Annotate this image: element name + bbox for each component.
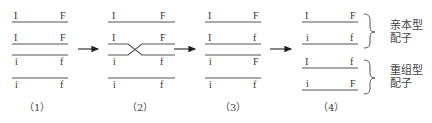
allele-label: f [253, 32, 257, 43]
allele-label: i [15, 56, 18, 67]
allele-label: F [350, 10, 356, 21]
allele-label: f [160, 56, 164, 67]
crossover-strand [108, 44, 175, 55]
recombinant-gamete-label: 重组型 [390, 63, 423, 77]
brace-icon [364, 60, 375, 94]
parental-gamete-label: 亲本型 [390, 18, 423, 32]
allele-label: I [112, 32, 115, 43]
allele-label: f [60, 56, 64, 67]
allele-label: i [209, 56, 212, 67]
allele-label: i [306, 78, 309, 89]
recombinant-gamete-label: 配子 [390, 77, 412, 90]
panel-caption: （3） [220, 102, 246, 113]
allele-label: F [160, 32, 166, 43]
allele-label: I [14, 10, 17, 21]
brace-icon [364, 14, 375, 48]
allele-label: i [209, 79, 212, 90]
allele-label: i [113, 56, 116, 67]
allele-label: F [160, 10, 166, 21]
panel-caption: （4） [318, 102, 344, 113]
allele-label: I [208, 10, 211, 21]
allele-label: i [306, 32, 309, 43]
allele-label: f [60, 79, 64, 90]
allele-label: F [60, 10, 66, 21]
allele-label: f [160, 79, 164, 90]
allele-label: I [14, 32, 17, 43]
allele-label: I [112, 10, 115, 21]
allele-label: i [15, 79, 18, 90]
allele-label: I [305, 56, 308, 67]
panel-2: I F I F i f i f （2） [108, 10, 175, 113]
allele-label: F [253, 56, 259, 67]
crossover-strand [108, 44, 175, 55]
panel-caption: （1） [24, 102, 50, 113]
allele-label: F [350, 78, 356, 89]
panel-caption: （2） [127, 102, 153, 113]
allele-label: I [208, 32, 211, 43]
allele-label: f [350, 32, 354, 43]
allele-label: I [305, 10, 308, 21]
allele-label: f [253, 79, 257, 90]
crossover-diagram: I F I F i f i f （1） I F I F i f i f （2） … [0, 0, 432, 123]
allele-label: F [60, 32, 66, 43]
allele-label: F [253, 10, 259, 21]
panel-1: I F I F i f i f （1） [12, 10, 68, 113]
allele-label: i [113, 79, 116, 90]
parental-gamete-label: 配子 [390, 32, 412, 45]
allele-label: f [350, 56, 354, 67]
panel-4: I F i f I f i F （4） 亲本型 配子 重组型 配子 [302, 10, 423, 113]
panel-3: I F I f i F i f （3） [205, 10, 261, 113]
